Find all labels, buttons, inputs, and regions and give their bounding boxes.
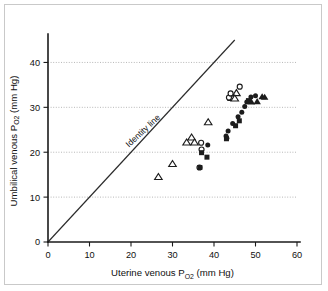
x-tick-label-20: 20 <box>126 250 136 260</box>
point-filled-square-5 <box>237 118 242 123</box>
point-filled-square-2 <box>204 155 209 160</box>
y-tick-label-30: 30 <box>30 103 40 113</box>
point-filled-square-0 <box>197 165 202 170</box>
y-tick-label-40: 40 <box>30 58 40 68</box>
x-tick-label-40: 40 <box>209 250 219 260</box>
x-tick-label-30: 30 <box>167 250 177 260</box>
point-open-triangle-0 <box>155 174 163 180</box>
x-tick-label-10: 10 <box>84 250 94 260</box>
identity-line-label: Identity line <box>123 112 162 149</box>
chart-container: 0102030405060010203040Uterine venous PO2… <box>0 0 328 291</box>
x-tick-label-60: 60 <box>292 250 302 260</box>
point-open-triangle-7 <box>233 90 241 96</box>
point-filled-square-4 <box>233 123 238 128</box>
y-tick-label-20: 20 <box>30 148 40 158</box>
point-open-triangle-5 <box>204 119 212 125</box>
scatter-plot: 0102030405060010203040Uterine venous PO2… <box>0 0 328 291</box>
point-filled-circle-6 <box>242 104 247 109</box>
point-open-triangle-1 <box>169 161 177 167</box>
y-tick-label-0: 0 <box>35 237 40 247</box>
point-filled-circle-0 <box>205 143 210 148</box>
identity-line <box>48 40 235 242</box>
point-filled-circle-5 <box>239 110 244 115</box>
point-open-circle-5 <box>237 84 242 89</box>
point-filled-circle-2 <box>226 129 231 134</box>
point-filled-square-1 <box>199 150 204 155</box>
y-axis-title: Umbilical venous PO2 (mm Hg) <box>8 76 21 207</box>
series-filled-square <box>197 98 251 170</box>
point-filled-circle-9 <box>253 93 258 98</box>
point-open-circle-4 <box>228 91 233 96</box>
y-tick-label-10: 10 <box>30 193 40 203</box>
x-tick-label-50: 50 <box>250 250 260 260</box>
point-filled-square-3 <box>224 136 229 141</box>
x-axis-title: Uterine venous PO2 (mm Hg) <box>111 267 234 280</box>
x-tick-label-0: 0 <box>45 250 50 260</box>
point-open-circle-1 <box>199 140 204 145</box>
